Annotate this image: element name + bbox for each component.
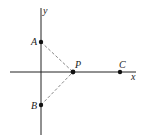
point-c	[118, 70, 122, 74]
label-p: P	[74, 59, 81, 70]
coordinate-diagram: y x A B P C	[0, 0, 145, 139]
point-p	[71, 70, 76, 75]
label-c: C	[119, 59, 126, 70]
y-axis-label: y	[42, 5, 48, 16]
point-a	[39, 40, 43, 44]
label-b: B	[31, 100, 37, 111]
point-b	[39, 103, 43, 107]
segment-b-p	[41, 72, 73, 105]
label-a: A	[30, 36, 38, 47]
x-axis-label: x	[130, 71, 136, 82]
segment-a-p	[41, 42, 73, 72]
